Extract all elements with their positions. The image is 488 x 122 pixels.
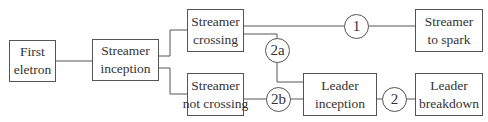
node-label-line2: breakdown	[419, 95, 479, 113]
marker-2b: 2b	[266, 87, 291, 112]
edge-inception-to-crossing	[158, 30, 187, 56]
node-first-electron: First eletron	[9, 40, 56, 82]
node-label-line1: Leader	[321, 77, 358, 95]
node-label-line2: inception	[100, 60, 150, 78]
node-streamer-crossing: Streamer crossing	[187, 9, 244, 52]
node-label-line1: Streamer	[191, 77, 240, 95]
edge-inception-to-not-crossing	[158, 68, 187, 94]
flow-diagram: First eletron Streamer inception Streame…	[0, 0, 488, 122]
node-label-line2: crossing	[193, 31, 238, 49]
node-label-line1: Streamer	[101, 42, 150, 60]
node-label-line2: eletron	[14, 61, 51, 79]
node-label-line1: First	[20, 43, 45, 61]
marker-2: 2	[382, 87, 407, 112]
node-label-line2: not crossing	[183, 95, 249, 113]
node-streamer-not-crossing: Streamer not crossing	[187, 73, 244, 116]
node-streamer-inception: Streamer inception	[92, 39, 159, 81]
edge-2a-to-leader-inception	[277, 62, 303, 82]
node-label-line2: inception	[315, 95, 365, 113]
marker-2a: 2a	[265, 38, 290, 63]
node-leader-breakdown: Leader breakdown	[415, 73, 483, 116]
marker-1: 1	[344, 14, 369, 39]
node-label-line2: to spark	[427, 31, 470, 49]
edge-crossing-to-2a	[243, 34, 277, 38]
node-label-line1: Streamer	[191, 13, 240, 31]
node-leader-inception: Leader inception	[303, 73, 377, 116]
node-streamer-to-spark: Streamer to spark	[415, 9, 483, 52]
node-label-line1: Streamer	[425, 13, 474, 31]
node-label-line1: Leader	[430, 77, 467, 95]
